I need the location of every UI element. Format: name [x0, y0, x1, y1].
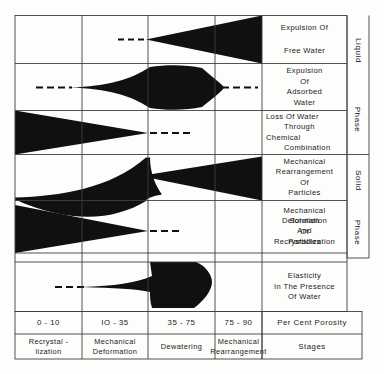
shape-expulsion-adsorbed-water [70, 65, 224, 110]
stage-line: Deformation [93, 347, 138, 357]
porosity-value: 35 - 75 [168, 318, 196, 328]
row-label-line: Expulsion [286, 66, 322, 77]
phase-label-text: Phase [354, 219, 363, 245]
stage-line: Rearrangement [210, 347, 267, 357]
stage-line: Dewatering [161, 342, 202, 352]
stage-cell-4: Mechanical Rearrangement [215, 334, 262, 359]
row-label-line: And [297, 226, 312, 237]
stage-line: Mechanical [218, 337, 259, 347]
porosity-value: IO - 35 [101, 318, 128, 328]
row-label-line: Loss Of Water [266, 112, 319, 123]
row-label-expulsion-adsorbed-water: Expulsion Of Adsorbed Water [262, 64, 347, 111]
porosity-value: 75 - 90 [225, 318, 253, 328]
row-label-line: Free Water [284, 46, 325, 57]
phase-label-text: Liquid [354, 38, 363, 63]
stage-cell-1: Recrystal - lization [15, 334, 82, 359]
row-label-loss-of-water: Loss Of Water Through Chemical Combinati… [262, 111, 347, 155]
stage-line: Mechanical [94, 337, 135, 347]
row-label-line: Chemical [266, 133, 300, 144]
phase-label-liquid-phase: Phase [347, 85, 369, 155]
phase-label-liquid: Liquid [347, 16, 369, 86]
phase-label-solid: Solid [347, 155, 369, 207]
row-label-elasticity: Elasticity In The Presence Of Water [262, 262, 347, 312]
stage-line: Recrystal - [29, 337, 69, 347]
row-label-mechanical-rearrangement: Mechanical Rearrangement Of Particles [262, 155, 347, 201]
row-label-line: Particles [288, 188, 320, 199]
stage-cell-3: Dewatering [148, 334, 215, 359]
stages-caption: Stages [262, 334, 362, 359]
row-label-line: Of [300, 77, 309, 88]
shape-elasticity-presence-water [82, 262, 212, 308]
stage-cell-2: Mechanical Deformation [82, 334, 148, 359]
shape-expulsion-free-water [146, 16, 262, 64]
row-label-line: Adsorbed [287, 87, 322, 98]
row-label-line: Of [300, 178, 309, 189]
stages-caption-text: Stages [298, 342, 325, 352]
row-label-line: Solution [289, 216, 319, 227]
porosity-cell-3: 35 - 75 [148, 312, 215, 335]
phase-label-solid-phase: Phase [347, 207, 369, 259]
stage-line: lization [35, 347, 61, 357]
phase-label-text: Solid [353, 170, 362, 191]
row-label-solution-recrystallization: Solution And Recrystallization [262, 210, 347, 253]
phase-label-text: Phase [354, 107, 363, 133]
shape-mechanical-deformation [15, 158, 162, 217]
row-label-line: Of Water [288, 292, 321, 303]
porosity-cell-1: 0 - 10 [15, 312, 82, 335]
shape-loss-of-water-chemical [15, 111, 148, 155]
process-shapes [15, 16, 262, 309]
row-label-line: Expulsion Of [281, 23, 328, 34]
process-porosity-chart: Expulsion Of Free Water Expulsion Of Ads… [0, 0, 384, 374]
row-label-line: Elasticity [288, 271, 321, 282]
row-label-line: Mechanical [284, 157, 326, 168]
row-label-expulsion-free-water: Expulsion Of Free Water [262, 16, 347, 64]
porosity-cell-4: 75 - 90 [215, 312, 262, 335]
porosity-caption-text: Per Cent Porosity [277, 318, 347, 328]
row-label-line: Recrystallization [274, 237, 335, 248]
porosity-cell-2: IO - 35 [82, 312, 148, 335]
row-label-line: Rearrangement [276, 167, 333, 178]
row-label-line: Through [266, 122, 315, 133]
row-label-line: In The Presence [274, 282, 335, 293]
row-label-line: Water [294, 98, 316, 109]
porosity-caption: Per Cent Porosity [262, 312, 362, 335]
row-label-line: Combination [266, 143, 330, 154]
porosity-value: 0 - 10 [37, 318, 60, 328]
